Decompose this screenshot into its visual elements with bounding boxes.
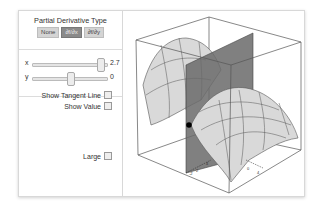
app-panel: Partial Derivative Type None ∂f/∂x ∂f/∂y… — [18, 10, 305, 197]
surface-front-lobe — [191, 87, 298, 182]
show-value-row: Show Value — [64, 102, 112, 110]
show-value-label: Show Value — [64, 103, 101, 110]
y-slider-label: y — [25, 73, 29, 80]
large-label: Large — [83, 153, 101, 160]
show-tangent-line-label: Show Tangent Line — [42, 92, 101, 99]
derivative-type-section: Partial Derivative Type None ∂f/∂x ∂f/∂y — [19, 16, 122, 50]
y-slider-row: y 0 — [19, 70, 122, 84]
df-dy-button[interactable]: ∂f/∂y — [84, 27, 104, 38]
derivative-type-title: Partial Derivative Type — [19, 16, 122, 25]
large-checkbox[interactable] — [104, 152, 112, 160]
derivative-type-buttons: None ∂f/∂x ∂f/∂y — [19, 27, 122, 38]
none-button[interactable]: None — [37, 27, 59, 38]
3d-plot[interactable]: -2 2 4 0 4 — [123, 11, 304, 196]
y-slider-track[interactable] — [32, 77, 108, 81]
svg-text:-2: -2 — [189, 171, 193, 176]
x-slider-label: x — [25, 59, 29, 66]
surface-point — [186, 122, 192, 128]
y-slider-value: 0 — [110, 73, 114, 80]
show-value-checkbox[interactable] — [104, 102, 112, 110]
x-slider-track[interactable] — [32, 63, 108, 67]
show-tangent-line-checkbox[interactable] — [104, 91, 112, 99]
show-tangent-line-row: Show Tangent Line — [42, 91, 112, 99]
svg-text:0: 0 — [247, 166, 250, 171]
x-slider-row: x 2.7 — [19, 56, 122, 70]
svg-text:4: 4 — [257, 170, 260, 175]
y-slider-thumb[interactable] — [67, 72, 75, 86]
controls-panel: Partial Derivative Type None ∂f/∂x ∂f/∂y… — [19, 11, 123, 196]
df-dx-button[interactable]: ∂f/∂x — [61, 27, 81, 38]
large-row: Large — [83, 152, 112, 160]
x-slider-value: 2.7 — [110, 59, 120, 66]
